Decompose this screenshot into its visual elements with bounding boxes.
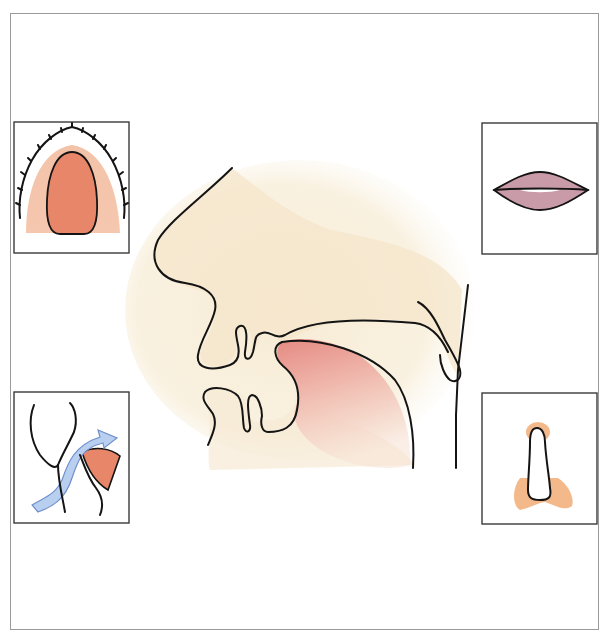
- panel-airflow[interactable]: [14, 392, 129, 523]
- anatomy-illustration: [0, 0, 608, 635]
- hard-palate: [47, 152, 97, 234]
- panel-palate[interactable]: [14, 122, 129, 253]
- head-profile: [125, 160, 475, 470]
- panel-lips[interactable]: [482, 123, 597, 254]
- panel-nostril[interactable]: [482, 393, 597, 524]
